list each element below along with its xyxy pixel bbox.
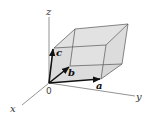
x-axis-label: x <box>10 103 16 114</box>
vector-b-label: b <box>68 67 75 78</box>
z-axis-label: z <box>45 6 52 17</box>
y-axis-label: y <box>135 91 142 102</box>
origin-label: 0 <box>46 86 52 96</box>
vector-c-label: c <box>56 47 62 58</box>
vector-a-label: a <box>96 80 102 91</box>
y-axis <box>49 83 135 96</box>
x-axis <box>22 83 49 105</box>
parallelepiped-diagram: z x y 0 a b c <box>0 0 149 130</box>
